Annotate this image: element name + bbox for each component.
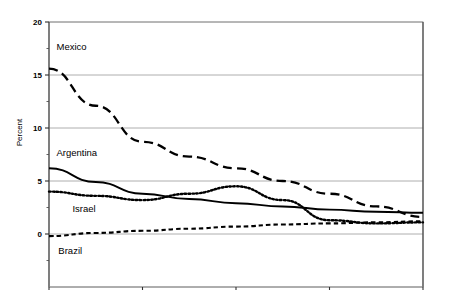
chart-figure: 0510152012345Number of months after prog…: [0, 0, 454, 290]
series-label-israel: Israel: [72, 203, 95, 214]
series-label-brazil: Brazil: [58, 245, 82, 256]
series-label-mexico: Mexico: [56, 41, 86, 52]
y-tick-label-20: 20: [33, 18, 42, 27]
series-label-argentina: Argentina: [56, 147, 97, 158]
y-tick-label-15: 15: [33, 71, 42, 80]
y-tick-label-10: 10: [33, 124, 42, 133]
y-tick-label-0: 0: [38, 230, 43, 239]
y-tick-label-5: 5: [38, 177, 43, 186]
y-axis-title: Percent: [15, 118, 24, 146]
plot-frame: [49, 22, 423, 287]
line-chart: 0510152012345Number of months after prog…: [0, 0, 454, 290]
